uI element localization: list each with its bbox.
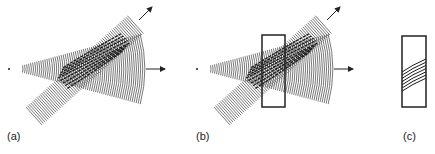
panel-label-c: (c): [403, 130, 416, 142]
panel-a-interference: [8, 7, 165, 125]
panel-b-plate-in-field: [196, 7, 353, 125]
point-source-icon: [8, 68, 10, 70]
plane-wave-arrow-icon: [327, 7, 340, 20]
point-source-icon: [196, 68, 198, 70]
panel-label-b: (b): [196, 130, 209, 142]
plane-wave-arrow-icon: [139, 7, 152, 20]
panel-c-recorded-plate: [402, 36, 426, 107]
panel-label-a: (a): [7, 130, 20, 142]
hologram-diagram: [0, 0, 435, 154]
